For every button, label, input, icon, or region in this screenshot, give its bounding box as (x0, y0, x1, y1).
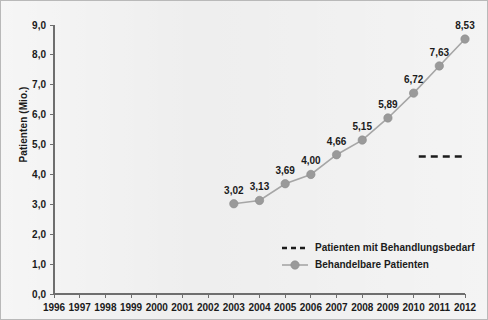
chart-legend: Patienten mit BehandlungsbedarfBehandelb… (282, 242, 475, 270)
x-axis-ticks: 1996199719981999200020012002200320042005… (43, 294, 477, 313)
x-tick-label: 2002 (197, 302, 220, 313)
data-point-label: 6,72 (404, 74, 424, 85)
x-tick-label: 1998 (94, 302, 117, 313)
y-tick-label: 3,0 (32, 199, 46, 210)
x-tick-label: 2009 (377, 302, 400, 313)
legend-label: Patienten mit Behandlungsbedarf (315, 242, 475, 253)
axis-lines (54, 25, 465, 294)
y-tick-label: 5,0 (32, 139, 46, 150)
series-marker (255, 196, 263, 204)
x-tick-label: 2003 (223, 302, 246, 313)
chart-figure: Patienten (Mio.) 0,01,02,03,04,05,06,07,… (0, 0, 488, 320)
data-point-label: 4,00 (301, 155, 321, 166)
y-tick-label: 6,0 (32, 109, 46, 120)
data-point-label: 5,89 (378, 99, 398, 110)
data-point-label: 5,15 (353, 121, 373, 132)
x-tick-label: 2000 (146, 302, 169, 313)
y-tick-label: 2,0 (32, 229, 46, 240)
series-marker (384, 114, 392, 122)
data-point-label: 7,63 (430, 47, 450, 58)
x-tick-label: 2011 (428, 302, 450, 313)
y-tick-label: 9,0 (32, 20, 46, 31)
series-marker (332, 151, 340, 159)
x-tick-label: 2010 (403, 302, 426, 313)
series-marker (307, 170, 315, 178)
data-point-labels: 3,023,133,694,004,665,155,896,727,638,53 (224, 20, 475, 196)
x-tick-label: 1999 (120, 302, 143, 313)
y-tick-label: 8,0 (32, 49, 46, 60)
data-point-label: 4,66 (327, 136, 347, 147)
x-tick-label: 1997 (69, 302, 92, 313)
data-point-label: 3,13 (250, 181, 270, 192)
series-marker (230, 200, 238, 208)
y-tick-label: 1,0 (32, 259, 46, 270)
legend-label: Behandelbare Patienten (315, 259, 429, 270)
x-tick-label: 1996 (43, 302, 66, 313)
series-line (234, 39, 465, 204)
x-tick-label: 2006 (300, 302, 323, 313)
y-tick-label: 7,0 (32, 79, 46, 90)
series-marker (281, 180, 289, 188)
data-point-label: 3,69 (275, 165, 295, 176)
x-tick-label: 2004 (248, 302, 271, 313)
data-point-label: 8,53 (455, 20, 475, 31)
series-marker (358, 136, 366, 144)
x-tick-label: 2012 (454, 302, 477, 313)
series-marker (435, 62, 443, 70)
series-marker (461, 35, 469, 43)
x-tick-label: 2001 (171, 302, 194, 313)
y-axis-ticks: 0,01,02,03,04,05,06,07,08,09,0 (32, 20, 54, 300)
x-tick-label: 2007 (325, 302, 348, 313)
x-tick-label: 2008 (351, 302, 374, 313)
chart-plot-area: 0,01,02,03,04,05,06,07,08,09,0 199619971… (1, 1, 488, 320)
series-marker (409, 89, 417, 97)
y-tick-label: 4,0 (32, 169, 46, 180)
data-point-label: 3,02 (224, 185, 244, 196)
y-tick-label: 0,0 (32, 289, 46, 300)
legend-marker-circle (291, 261, 299, 269)
x-tick-label: 2005 (274, 302, 297, 313)
